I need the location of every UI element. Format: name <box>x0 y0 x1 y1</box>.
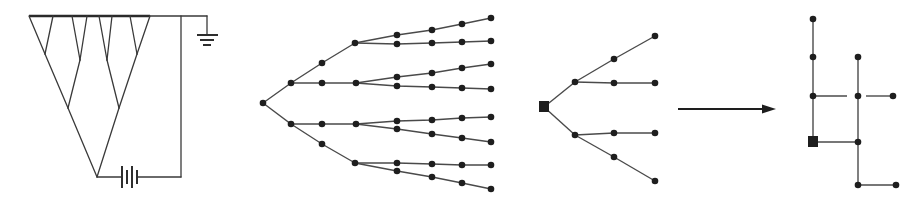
root-square <box>808 136 818 147</box>
tree-edge <box>263 103 356 124</box>
branch-line <box>99 16 107 60</box>
tree-node <box>429 40 436 47</box>
figure-canvas <box>0 0 922 205</box>
grid-tree-panel <box>808 16 899 189</box>
branch-line <box>45 54 68 108</box>
grid-node <box>855 139 862 146</box>
tree-node <box>488 114 495 121</box>
tree-edge <box>614 36 655 59</box>
tree-node <box>353 80 360 87</box>
branch-line <box>72 16 80 60</box>
tree-node <box>488 139 495 146</box>
tree-node <box>429 70 436 77</box>
tree-node <box>611 130 618 137</box>
branch-line <box>137 16 150 54</box>
tree-node <box>572 79 579 86</box>
tree-node <box>488 15 495 22</box>
grid-node <box>855 54 862 61</box>
tree-edge <box>355 163 491 189</box>
tree-node <box>572 132 579 139</box>
rooted-tree-panel <box>539 33 658 185</box>
circuit-panel <box>29 16 218 188</box>
tree-node <box>488 162 495 169</box>
tree-edge <box>575 59 614 82</box>
tree-node <box>319 141 326 148</box>
tree-node <box>488 186 495 193</box>
tree-edge <box>356 117 491 124</box>
tree-node <box>488 61 495 68</box>
tree-node <box>429 174 436 181</box>
tree-node <box>459 39 466 46</box>
tree-node <box>394 168 401 175</box>
tree-node <box>319 80 326 87</box>
tree-node <box>319 121 326 128</box>
tree-node <box>611 56 618 63</box>
tree-node <box>288 121 295 128</box>
tree-node <box>652 130 659 137</box>
branch-line <box>107 16 112 60</box>
grid-node <box>810 93 817 100</box>
tree-node <box>488 38 495 45</box>
transform-arrow-icon <box>678 105 776 114</box>
tree-edge <box>614 157 655 181</box>
grid-node <box>855 182 862 189</box>
tree-node <box>459 85 466 92</box>
tree-node <box>459 21 466 28</box>
branch-line <box>97 108 119 177</box>
tree-node <box>352 160 359 167</box>
tree-edge <box>575 133 614 135</box>
tree-node <box>652 178 659 185</box>
tree-edge <box>355 18 491 43</box>
tree-node <box>394 126 401 133</box>
tree-node <box>394 160 401 167</box>
branch-line <box>130 16 137 54</box>
tree-node <box>611 80 618 87</box>
tree-edge <box>356 83 491 89</box>
tree-node <box>288 80 295 87</box>
root-square <box>539 101 549 112</box>
tree-node <box>488 86 495 93</box>
tree-node <box>611 154 618 161</box>
binary-tree-panel <box>260 15 495 193</box>
branch-line <box>80 16 87 60</box>
grid-node <box>810 54 817 61</box>
tree-edge <box>355 163 491 165</box>
tree-node <box>429 84 436 91</box>
tree-node <box>459 162 466 169</box>
tree-node <box>459 65 466 72</box>
branch-line <box>119 54 137 108</box>
branch-line <box>68 108 97 177</box>
tree-node <box>459 180 466 187</box>
arrow-head-icon <box>762 105 776 114</box>
tree-node <box>429 161 436 168</box>
tree-edge <box>575 82 614 83</box>
tree-node <box>394 83 401 90</box>
tree-node <box>429 131 436 138</box>
branch-line <box>45 16 53 54</box>
tree-edge <box>575 135 614 157</box>
branch-line <box>68 60 80 108</box>
tree-node <box>429 27 436 34</box>
grid-node <box>893 182 900 189</box>
tree-node <box>429 117 436 124</box>
tree-node <box>319 60 326 67</box>
tree-node <box>394 41 401 48</box>
branch-line <box>29 16 45 54</box>
grid-node <box>890 93 897 100</box>
grid-node <box>810 16 817 23</box>
tree-edge <box>355 41 491 44</box>
tree-edge <box>356 64 491 83</box>
tree-node <box>353 121 360 128</box>
tree-node <box>459 135 466 142</box>
tree-edge <box>356 124 491 142</box>
tree-node <box>652 33 659 40</box>
tree-node <box>352 40 359 47</box>
branch-line <box>107 60 119 108</box>
tree-node <box>260 100 267 107</box>
tree-node <box>394 74 401 81</box>
tree-edge <box>263 43 355 103</box>
tree-node <box>652 80 659 87</box>
tree-node <box>394 118 401 125</box>
tree-node <box>459 115 466 122</box>
tree-node <box>394 32 401 39</box>
